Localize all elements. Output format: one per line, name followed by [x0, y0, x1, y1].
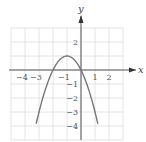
y-tick-labels: 2−1−2−3−4 — [66, 38, 78, 131]
y-tick-label: −4 — [66, 122, 78, 131]
x-tick-label: 2 — [106, 73, 111, 82]
x-tick-label: −3 — [30, 73, 42, 82]
x-tick-label: 1 — [92, 73, 97, 82]
y-tick-label: −1 — [66, 80, 78, 89]
parabola-graph: −4−3−112 2−1−2−3−4 x y — [0, 0, 146, 142]
x-arrow-icon — [129, 68, 136, 73]
x-tick-label: −4 — [16, 73, 28, 82]
y-tick-label: −3 — [66, 108, 78, 117]
y-tick-label: 2 — [73, 38, 78, 47]
y-arrow-icon — [79, 15, 84, 23]
x-tick-labels: −4−3−112 — [16, 73, 111, 82]
x-axis-label: x — [138, 64, 144, 75]
y-axis-label: y — [77, 3, 84, 14]
y-tick-label: −2 — [66, 94, 78, 103]
